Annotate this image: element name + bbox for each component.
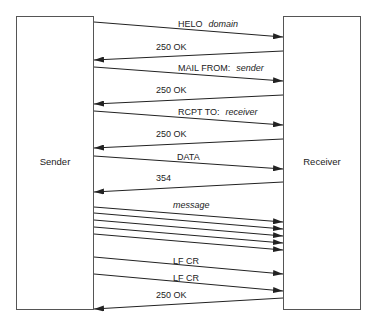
message-ok4: 250 OK [94,290,283,309]
message-label: RCPT TO:receiver [178,107,259,117]
message-msg1: message [94,200,283,222]
message-mail: MAIL FROM:sender [94,63,283,81]
message-data: DATA [94,152,283,169]
message-msg4 [94,227,283,243]
message-label: HELOdomain [178,19,238,29]
arrow-line [94,95,283,104]
message-lfcr1: LF CR [94,256,283,274]
message-label: 250 OK [156,42,187,52]
message-arrows: HELOdomain250 OKMAIL FROM:sender250 OKRC… [94,19,283,309]
arrow-line [94,234,283,250]
message-msg5 [94,234,283,250]
message-msg3 [94,220,283,236]
arrow-line [94,298,283,309]
arrow-line [94,227,283,243]
message-helo: HELOdomain [94,19,283,37]
message-r354: 354 [94,173,283,192]
message-label: 250 OK [156,129,187,139]
message-label: LF CR [173,273,200,283]
smtp-sequence-diagram: Sender Receiver HELOdomain250 OKMAIL FRO… [0,0,376,324]
message-label: DATA [177,152,200,162]
message-label: MAIL FROM:sender [178,63,265,73]
message-msg2 [94,213,283,229]
message-label: 250 OK [156,290,187,300]
sender-box: Sender [17,17,94,310]
receiver-label: Receiver [303,156,341,167]
message-label: LF CR [173,256,200,266]
message-ok2: 250 OK [94,85,283,104]
message-label: 354 [156,173,171,183]
arrow-line [94,220,283,236]
message-label: message [173,200,210,210]
message-ok3: 250 OK [94,129,283,148]
arrow-line [94,139,283,148]
receiver-box: Receiver [284,17,361,310]
arrow-line [94,51,283,60]
message-ok1: 250 OK [94,42,283,60]
message-rcpt: RCPT TO:receiver [94,107,283,125]
message-lfcr2: LF CR [94,273,283,291]
sender-label: Sender [40,156,71,167]
message-label: 250 OK [156,85,187,95]
arrow-line [94,182,283,192]
arrow-line [94,213,283,229]
